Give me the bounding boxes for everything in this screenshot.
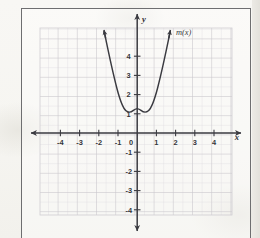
x-tick-label: -1 [115, 138, 122, 147]
origin-label: 0 [129, 138, 133, 147]
y-axis-label: y [141, 14, 146, 24]
y-tick-label: -3 [125, 186, 132, 195]
x-tick-label: -2 [96, 138, 103, 147]
y-tick-label: -2 [125, 167, 132, 176]
x-tick-label: 3 [193, 138, 197, 147]
y-tick-label: 3 [126, 71, 130, 80]
y-tick-label: -4 [125, 206, 132, 215]
y-tick-label: -1 [125, 148, 132, 157]
function-label-m: m(x) [176, 28, 192, 37]
x-tick-label: -4 [57, 138, 64, 147]
y-tick-label: 2 [126, 90, 130, 99]
figure-page: -4 -3 -2 -1 0 1 2 3 4 4 3 2 1 -1 -2 -3 -… [0, 0, 260, 238]
x-tick-label: 1 [154, 138, 158, 147]
graph-svg: -4 -3 -2 -1 0 1 2 3 4 4 3 2 1 -1 -2 -3 -… [0, 0, 260, 238]
x-tick-label: -3 [76, 138, 83, 147]
coordinate-plane: -4 -3 -2 -1 0 1 2 3 4 4 3 2 1 -1 -2 -3 -… [0, 0, 260, 238]
x-tick-label: 2 [174, 138, 178, 147]
x-axis-label: x [234, 132, 240, 142]
